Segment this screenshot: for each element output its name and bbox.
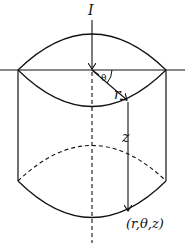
theta-arc	[107, 70, 112, 83]
cylinder-diagram: I θ r z (r,θ,z)	[0, 0, 187, 243]
point-label: (r,θ,z)	[126, 216, 164, 231]
z-label: z	[121, 129, 130, 145]
radius-start-tick	[92, 70, 99, 75]
current-label: I	[87, 2, 94, 18]
theta-label: θ	[101, 73, 106, 83]
radius-vector	[92, 70, 127, 100]
